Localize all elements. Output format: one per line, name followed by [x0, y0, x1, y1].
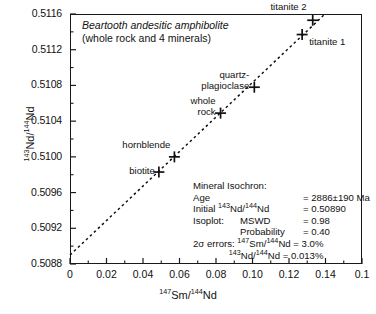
- point-label-quartz-plagioclase: quartz-plagioclase: [192, 70, 249, 91]
- data-point-titanite-2: [307, 15, 318, 26]
- stats-row: Probability= 0.40: [193, 226, 323, 238]
- stats-errors-line-2: 143Nd/144Nd = 0.013%: [193, 250, 323, 262]
- isochron-statistics: Mineral Isochron:Age= 2886±190 MaInitial…: [193, 180, 323, 261]
- plot-canvas: [0, 0, 376, 314]
- point-label-titanite-2: titanite 2: [257, 2, 307, 13]
- data-point-whole-rock: [215, 108, 226, 119]
- stats-row: Age= 2886±190 Ma: [193, 192, 323, 204]
- stats-row: Isoplot:MSWD= 0.98: [193, 215, 323, 227]
- data-point-quartz-plagioclase: [249, 82, 260, 93]
- stats-row: Initial 143Nd/144Nd= 0.50890: [193, 203, 323, 215]
- point-label-biotite: biotite: [111, 166, 155, 177]
- point-label-titanite-1: titanite 1: [309, 37, 355, 48]
- chart-figure: Beartooth andesitic amphibolite (whole r…: [0, 0, 376, 314]
- point-label-whole-rock: wholerock: [183, 96, 216, 117]
- stats-heading: Mineral Isochron:: [193, 180, 323, 192]
- point-label-hornblende: hornblende: [114, 140, 170, 151]
